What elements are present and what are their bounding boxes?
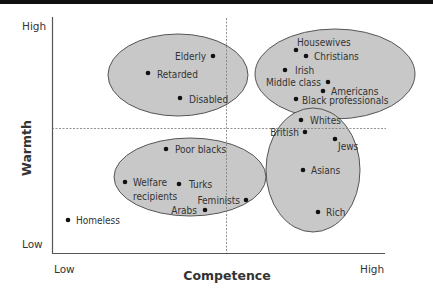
svg-text:Homeless: Homeless xyxy=(76,215,120,226)
svg-text:Welfare: Welfare xyxy=(133,177,168,188)
point-black-professionals: Black professionals xyxy=(294,95,389,106)
svg-text:Housewives: Housewives xyxy=(297,37,351,48)
x-axis-title: Competence xyxy=(183,268,270,283)
svg-text:Disabled: Disabled xyxy=(189,94,228,105)
svg-text:Turks: Turks xyxy=(188,179,213,190)
svg-text:Poor blacks: Poor blacks xyxy=(175,144,227,155)
svg-text:Arabs: Arabs xyxy=(171,205,197,216)
svg-text:Rich: Rich xyxy=(326,207,345,218)
y-tick-high: High xyxy=(22,20,46,32)
point-middle-class: Middle class xyxy=(266,77,330,88)
svg-text:Irish: Irish xyxy=(295,65,314,76)
svg-text:Christians: Christians xyxy=(314,51,359,62)
svg-text:Jews: Jews xyxy=(337,141,359,152)
svg-text:Asians: Asians xyxy=(311,165,341,176)
svg-text:Elderly: Elderly xyxy=(175,51,207,62)
svg-text:recipients: recipients xyxy=(133,191,177,202)
svg-text:British: British xyxy=(270,127,299,138)
point-homeless: Homeless xyxy=(66,215,121,226)
svg-text:Black professionals: Black professionals xyxy=(302,95,389,106)
y-tick-low: Low xyxy=(22,238,43,250)
svg-text:Feminists: Feminists xyxy=(197,195,240,206)
x-tick-high: High xyxy=(360,263,384,275)
stereotype-content-chart: High Low Low High Warmth Competence Elde… xyxy=(0,0,433,299)
svg-text:Middle class: Middle class xyxy=(266,77,321,88)
y-axis-title: Warmth xyxy=(19,120,34,176)
x-tick-low: Low xyxy=(54,263,75,275)
svg-text:Whites: Whites xyxy=(310,115,341,126)
svg-text:Retarded: Retarded xyxy=(157,69,198,80)
